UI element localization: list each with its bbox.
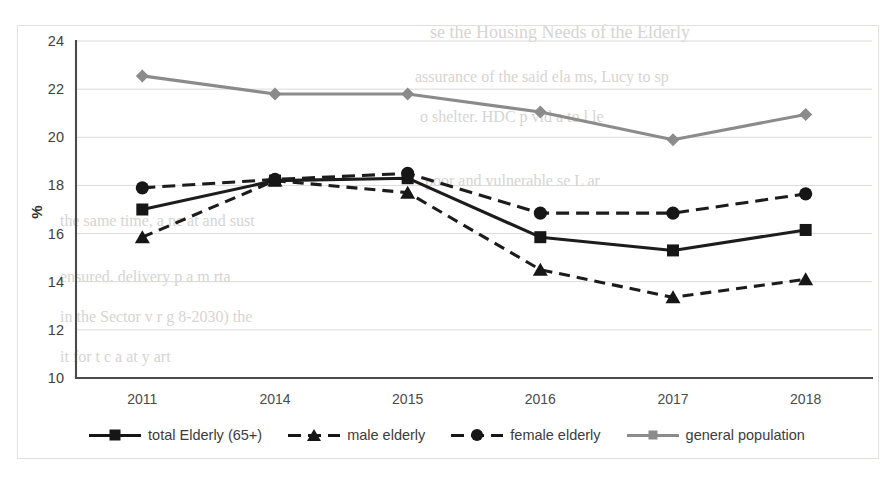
marker-female-elderly-2014 bbox=[268, 173, 281, 186]
legend-item-general-population[interactable]: general population bbox=[627, 427, 805, 443]
series-line-male-elderly bbox=[142, 181, 805, 298]
legend-item-total-elderly-65-[interactable]: total Elderly (65+) bbox=[89, 427, 262, 443]
marker-male-elderly-2018 bbox=[798, 272, 813, 285]
solid-line-diamond-marker-icon bbox=[627, 428, 679, 442]
marker-female-elderly-2011 bbox=[136, 181, 149, 194]
legend-marker bbox=[307, 429, 321, 441]
series-line-total-elderly- bbox=[142, 178, 805, 250]
legend-label: general population bbox=[686, 427, 805, 443]
x-tick-label: 2016 bbox=[525, 391, 556, 407]
marker-female-elderly-2016 bbox=[534, 207, 547, 220]
legend-item-male-elderly[interactable]: male elderly bbox=[288, 427, 425, 443]
y-tick-label: 10 bbox=[48, 370, 64, 386]
marker-general-population-2018 bbox=[799, 108, 812, 121]
solid-line-square-marker-icon bbox=[89, 428, 141, 442]
y-tick-label: 14 bbox=[48, 274, 64, 290]
y-tick-label: 16 bbox=[48, 226, 64, 242]
dashed-line-triangle-marker-icon bbox=[288, 428, 340, 442]
x-tick-label: 2014 bbox=[259, 391, 290, 407]
legend-label: total Elderly (65+) bbox=[148, 427, 262, 443]
chart-legend: total Elderly (65+)male elderlyfemale el… bbox=[17, 418, 877, 452]
marker-total-elderly--2016 bbox=[534, 231, 546, 243]
marker-female-elderly-2017 bbox=[666, 207, 679, 220]
x-tick-label: 2018 bbox=[790, 391, 821, 407]
gridlines bbox=[76, 41, 872, 378]
legend-item-female-elderly[interactable]: female elderly bbox=[451, 427, 600, 443]
y-axis-title: % bbox=[28, 205, 45, 218]
x-axis-tick-labels: 201120142015201620172018 bbox=[127, 391, 821, 407]
y-tick-label: 12 bbox=[48, 322, 64, 338]
marker-male-elderly-2016 bbox=[533, 263, 548, 276]
dashed-line-circle-marker-icon bbox=[451, 428, 503, 442]
y-tick-label: 24 bbox=[48, 33, 64, 49]
legend-marker bbox=[471, 429, 483, 441]
x-tick-label: 2017 bbox=[657, 391, 688, 407]
axes bbox=[76, 41, 872, 378]
marker-total-elderly--2011 bbox=[136, 204, 148, 216]
marker-general-population-2017 bbox=[667, 133, 680, 146]
x-tick-label: 2011 bbox=[127, 391, 157, 407]
y-axis-tick-labels: 1012141618202224 bbox=[48, 33, 64, 386]
marker-female-elderly-2018 bbox=[799, 187, 812, 200]
legend-label: male elderly bbox=[347, 427, 425, 443]
legend-marker bbox=[648, 431, 657, 440]
y-tick-label: 22 bbox=[48, 81, 64, 97]
data-series-layer bbox=[135, 69, 813, 303]
legend-marker bbox=[110, 430, 121, 441]
series-line-general-population bbox=[142, 76, 805, 140]
legend-label: female elderly bbox=[510, 427, 600, 443]
marker-general-population-2011 bbox=[136, 69, 149, 82]
marker-male-elderly-2011 bbox=[135, 230, 150, 243]
y-tick-label: 18 bbox=[48, 177, 64, 193]
x-tick-label: 2015 bbox=[392, 391, 423, 407]
marker-general-population-2016 bbox=[534, 106, 547, 119]
marker-female-elderly-2015 bbox=[401, 167, 414, 180]
marker-total-elderly--2017 bbox=[667, 244, 679, 256]
marker-total-elderly--2018 bbox=[800, 224, 812, 236]
y-tick-label: 20 bbox=[48, 129, 64, 145]
